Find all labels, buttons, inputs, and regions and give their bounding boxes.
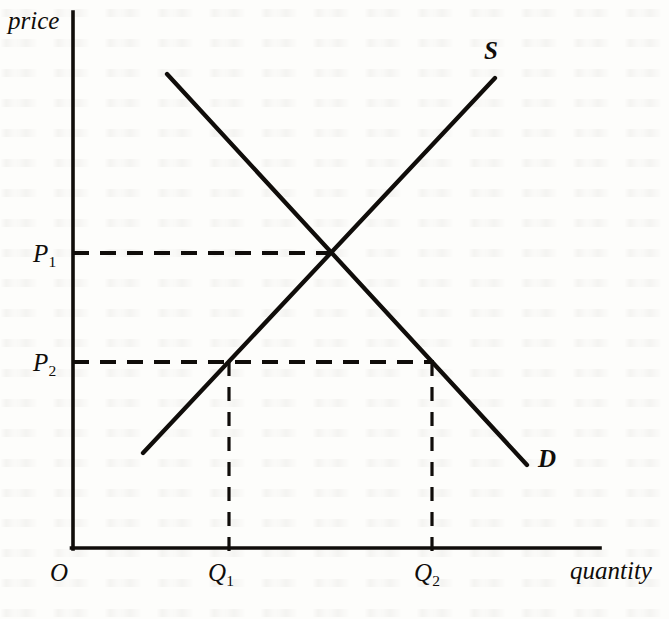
demand-curve: [167, 74, 527, 465]
price-tick-label-p2: P2: [33, 350, 56, 375]
quantity-tick-label-q2: Q2: [414, 560, 440, 585]
supply-curve-label: S: [484, 38, 498, 63]
supply-curve: [143, 78, 495, 453]
price-tick-label-p1: P1: [33, 241, 56, 266]
price-tick-p1-sub: 1: [48, 253, 56, 270]
quantity-tick-q2-sub: 2: [432, 572, 440, 589]
price-tick-p2-sub: 2: [48, 362, 56, 379]
demand-curve-label: D: [538, 446, 556, 471]
x-axis-label: quantity: [570, 558, 652, 583]
quantity-tick-q1-sub: 1: [226, 572, 234, 589]
y-axis-label: price: [8, 8, 59, 33]
origin-label: O: [50, 560, 68, 585]
price-tick-p2-base: P: [33, 349, 48, 376]
quantity-tick-q2-base: Q: [414, 559, 432, 586]
price-tick-p1-base: P: [33, 240, 48, 267]
figure-canvas: price quantity O P1 P2 Q1 Q2 S D: [0, 0, 669, 619]
supply-demand-plot: [0, 0, 669, 619]
quantity-tick-label-q1: Q1: [208, 560, 234, 585]
quantity-tick-q1-base: Q: [208, 559, 226, 586]
